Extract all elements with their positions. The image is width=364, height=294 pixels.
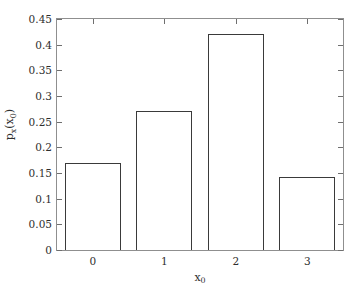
bar (136, 111, 192, 250)
y-axis-label-p-subscript: x (9, 129, 18, 133)
x-tick-label: 0 (89, 256, 96, 267)
y-tick-label: 0.25 (29, 116, 52, 127)
plot-area: 00.050.10.150.20.250.30.350.40.45 0123 (56, 18, 344, 251)
x-axis-label: x0 (56, 272, 344, 285)
y-tick-label: 0.2 (35, 142, 52, 153)
bar-slot (272, 19, 344, 250)
x-tick-label: 2 (232, 256, 239, 267)
y-tick-label: 0.15 (29, 168, 52, 179)
y-tick-label: 0.05 (29, 219, 52, 230)
y-tick-mark-right (338, 250, 343, 251)
y-tick-label: 0.35 (29, 65, 52, 76)
y-tick-label: 0.3 (35, 91, 52, 102)
y-tick-label: 0.1 (35, 193, 52, 204)
y-tick-label: 0.45 (29, 14, 52, 25)
y-axis-label-close: ) (3, 109, 16, 113)
y-tick-label: 0.4 (35, 39, 52, 50)
x-tick-label: 3 (304, 256, 311, 267)
x-tick-label: 1 (161, 256, 168, 267)
chart-figure: 00.050.10.150.20.250.30.350.40.45 0123 x… (0, 0, 364, 294)
y-axis-label-open: (x (3, 118, 16, 129)
y-axis-label: px(x0) (4, 80, 17, 170)
bar-slot (57, 19, 129, 250)
bar (65, 163, 121, 250)
x-axis-label-subscript: 0 (201, 276, 206, 285)
bar-slot (200, 19, 272, 250)
bar-slot (129, 19, 201, 250)
y-tick-label: 0 (45, 245, 52, 256)
y-axis-label-p: p (3, 133, 16, 140)
y-axis-label-arg-subscript: 0 (9, 113, 18, 118)
bar (279, 177, 335, 250)
bar (208, 34, 264, 250)
bar-series (57, 19, 343, 250)
y-tick-mark-left (57, 250, 62, 251)
